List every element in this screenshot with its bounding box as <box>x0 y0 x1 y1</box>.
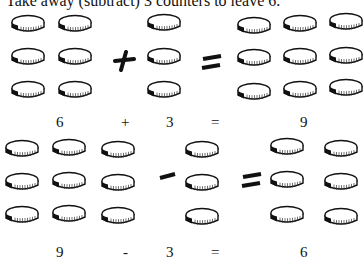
coin-icon <box>100 140 136 162</box>
coin-icon <box>184 207 220 229</box>
coin-icon <box>328 46 364 68</box>
coin-icon <box>269 170 305 192</box>
coin-icon <box>4 205 40 227</box>
coin-icon <box>100 173 136 195</box>
coin-icon <box>146 80 182 102</box>
subtraction-right-number: 3 <box>166 244 174 260</box>
coin-icon <box>57 14 93 36</box>
coin-icon <box>146 47 182 69</box>
coin-icon <box>236 82 272 104</box>
coin-icon <box>269 205 305 227</box>
coin-icon <box>282 80 318 102</box>
addition-right-number: 3 <box>166 114 174 130</box>
plus-icon <box>112 50 136 72</box>
equals-icon <box>240 172 264 190</box>
minus-icon <box>158 171 178 181</box>
coin-icon <box>328 78 364 100</box>
subtraction-operator: - <box>123 244 128 260</box>
coin-icon <box>184 140 220 162</box>
addition-equals: = <box>211 114 219 130</box>
coin-icon <box>236 48 272 70</box>
coin-icon <box>236 16 272 38</box>
coin-icon <box>51 171 87 193</box>
coin-icon <box>184 173 220 195</box>
coin-icon <box>57 47 93 69</box>
coin-icon <box>146 13 182 35</box>
coin-icon <box>323 172 359 194</box>
coin-icon <box>10 14 46 36</box>
equals-icon <box>200 54 224 72</box>
addition-left-number: 6 <box>56 114 64 130</box>
addition-result-number: 9 <box>300 114 308 130</box>
coin-icon <box>51 138 87 160</box>
addition-operator: + <box>121 114 129 130</box>
coin-icon <box>57 80 93 102</box>
coin-icon <box>269 137 305 159</box>
coin-icon <box>100 206 136 228</box>
coin-icon <box>10 80 46 102</box>
coin-icon <box>282 14 318 36</box>
coin-icon <box>10 47 46 69</box>
instruction-title: Take away (subtract) 3 counters to leave… <box>6 0 280 10</box>
coin-icon <box>51 204 87 226</box>
subtraction-equals: = <box>211 244 219 260</box>
coin-icon <box>328 12 364 34</box>
coin-icon <box>282 47 318 69</box>
subtraction-result-number: 6 <box>300 244 308 260</box>
coin-icon <box>323 139 359 161</box>
subtraction-left-number: 9 <box>56 244 64 260</box>
coin-icon <box>4 139 40 161</box>
coin-icon <box>323 207 359 229</box>
coin-icon <box>4 172 40 194</box>
